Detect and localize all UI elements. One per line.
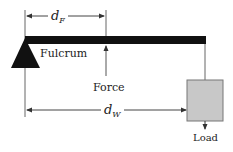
- distance-weight-dimension: dW: [27, 102, 186, 119]
- load-box: [187, 80, 223, 121]
- load-label: Load: [193, 132, 219, 143]
- d-w-label: dW: [104, 102, 121, 119]
- fulcrum-label: Fulcrum: [40, 47, 88, 60]
- d-f-label: dF: [51, 8, 65, 25]
- force-label: Force: [93, 81, 125, 94]
- lever-beam: [25, 36, 206, 44]
- lever-diagram: dF Fulcrum Force Load dW: [0, 0, 233, 152]
- distance-force-dimension: dF: [27, 8, 104, 25]
